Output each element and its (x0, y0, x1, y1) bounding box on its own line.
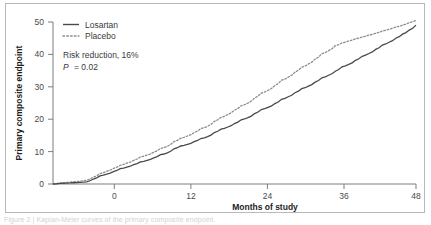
x-axis-title: Months of study (232, 202, 298, 212)
x-tick-label-12: 12 (186, 191, 196, 201)
y-tick-label-40: 40 (35, 49, 45, 59)
annotations: Risk reduction, 16% P = 0.02 (63, 50, 139, 72)
x-tick-label-0: 0 (112, 191, 117, 201)
y-tick-label-30: 30 (35, 82, 45, 92)
x-tick-label-36: 36 (339, 191, 349, 201)
figure-caption: Figure 2 | Kaplan-Meier curves of the pr… (4, 215, 428, 224)
y-axis-title: Primary composite endpoint (14, 45, 24, 160)
y-tick-label-0: 0 (39, 179, 44, 189)
series-group (53, 20, 416, 184)
x-tick-label-48: 48 (411, 191, 421, 201)
legend-label-placebo: Placebo (85, 31, 116, 41)
chart-plot: 0 10 20 30 40 50 0 12 24 36 48 Months of… (6, 4, 426, 214)
annotation-risk-reduction: Risk reduction, 16% (63, 50, 139, 60)
y-tick-label-10: 10 (35, 147, 45, 157)
figure-frame: 0 10 20 30 40 50 0 12 24 36 48 Months of… (5, 3, 425, 213)
y-axis-tick-labels: 0 10 20 30 40 50 (35, 17, 45, 189)
legend-label-losartan: Losartan (85, 20, 118, 30)
series-line-losartan (53, 25, 416, 184)
x-axis-ticks (114, 184, 416, 189)
legend: Losartan Placebo (63, 20, 118, 42)
x-axis-tick-labels: 0 12 24 36 48 (112, 191, 421, 201)
y-tick-label-20: 20 (35, 114, 45, 124)
y-axis-ticks (48, 22, 53, 184)
series-line-placebo (53, 20, 416, 184)
x-tick-label-24: 24 (263, 191, 273, 201)
y-tick-label-50: 50 (35, 17, 45, 27)
annotation-pvalue: P = 0.02 (63, 62, 98, 72)
